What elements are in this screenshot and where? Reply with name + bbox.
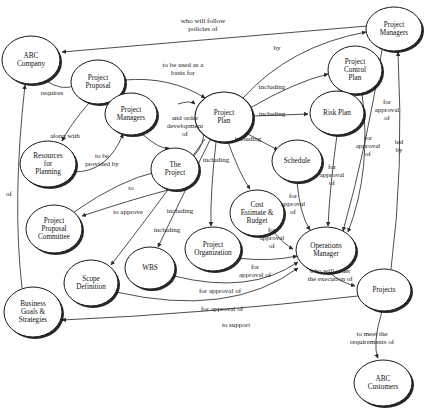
edge-label-for-approval-of-project-organization: for approval of xyxy=(239,263,271,279)
node-projects[interactable] xyxy=(357,269,413,313)
diagram-svg xyxy=(0,0,424,410)
edge-label-to-approve: to approve xyxy=(113,208,143,216)
edge-to xyxy=(74,172,156,212)
edge-label-for-approval-of-project-managers: for approval of xyxy=(375,98,400,122)
node-wbs[interactable] xyxy=(125,247,177,291)
edge-label-to: to xyxy=(128,184,133,192)
edge-including-project-organization xyxy=(211,142,216,226)
edge-label-who-will-follow-policies-of: who will follow policies of xyxy=(181,17,226,33)
node-project-managers-right[interactable] xyxy=(366,7,424,53)
edge-label-to-meet-the-requirements-of: to meet the requirements of xyxy=(350,330,394,346)
edge-label-including-risk-plan: including xyxy=(259,110,285,118)
edge-label-to-support: to support xyxy=(222,321,250,329)
edge-led-by xyxy=(391,52,400,269)
node-resources-for-planning[interactable] xyxy=(20,141,78,189)
node-scope-definition[interactable] xyxy=(64,260,120,308)
edge-label-to-be-used-as-a-basis-for: to be used as a basis for xyxy=(163,61,204,77)
edge-label-along-with: along with xyxy=(50,132,80,140)
edge-label-requires: requires xyxy=(41,89,64,97)
edge-and-order-development-of xyxy=(141,133,169,148)
edge-order-development-into-plan xyxy=(178,102,195,104)
edge-label-for-approval-of-scope-definition: for approval of xyxy=(201,305,243,313)
edge-label-including-control-plan: including xyxy=(259,83,285,91)
edge-label-for-approval-of-control-plan: for approval of xyxy=(356,134,381,158)
edge-label-who-will-order-the-execution-of: who will order the execution of xyxy=(307,267,352,283)
edge-label-including-project-organization: including xyxy=(167,207,193,215)
edge-of xyxy=(18,85,25,288)
edge-label-for-approval-of-risk-plan: for approval of xyxy=(320,163,345,187)
node-project-organization[interactable] xyxy=(185,227,243,273)
node-project-proposal-committee[interactable] xyxy=(26,205,84,255)
node-project-control-plan[interactable] xyxy=(328,46,384,96)
concept-map-canvas: ABC Company Project Proposal Project Man… xyxy=(0,0,424,410)
edge-label-and-order-development-of: and order development of xyxy=(167,114,203,138)
edge-including-cost-estimate xyxy=(228,142,250,189)
node-schedule[interactable] xyxy=(272,140,324,184)
node-project-managers-left[interactable] xyxy=(105,93,159,137)
node-abc-customers[interactable] xyxy=(354,360,414,408)
edge-label-by: by xyxy=(274,44,281,52)
edge-label-for-approval-of-wbs: for approval of xyxy=(199,287,241,295)
edge-for-approval-of-project-organization xyxy=(237,256,297,260)
edge-label-to-be-provided-by: to be provided by xyxy=(85,152,119,168)
edge-label-led-by: led by xyxy=(395,138,404,154)
edge-label-including-wbs: including xyxy=(154,226,180,234)
edge-label-of: of xyxy=(6,190,12,198)
node-layer xyxy=(2,7,424,408)
node-risk-plan[interactable] xyxy=(310,91,366,137)
node-abc-company[interactable] xyxy=(2,36,62,86)
edge-label-for-approval-of-cost-estimate: for approval of xyxy=(260,226,285,250)
node-business-goals-strategies[interactable] xyxy=(4,287,64,339)
edge-label-for-approval-of-schedule: for approval of xyxy=(281,192,306,216)
edge-label-including-schedule: including xyxy=(235,135,261,143)
edge-label-including-cost-estimate: including xyxy=(203,156,229,164)
